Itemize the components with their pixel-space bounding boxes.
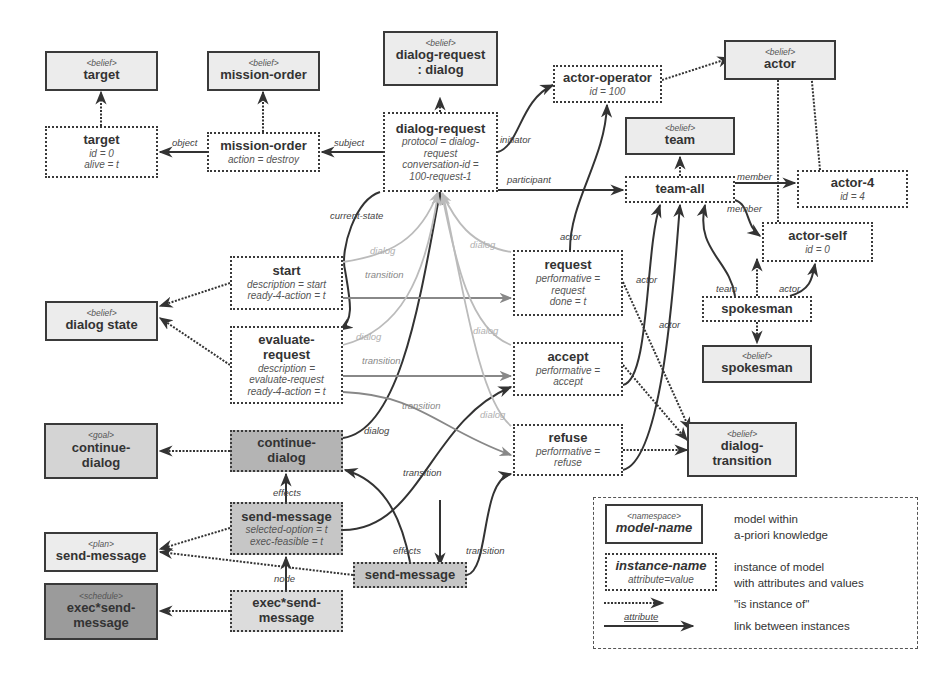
instance-title: actor-self bbox=[788, 229, 847, 244]
instance-title: send-message bbox=[241, 510, 331, 525]
legend-instance-box: instance-name attribute=value bbox=[605, 553, 717, 591]
model-title: target bbox=[83, 68, 119, 83]
instance-attr: evaluate-request bbox=[249, 374, 324, 386]
edge-label-transition: transition bbox=[362, 355, 401, 366]
instance-title: continue- dialog bbox=[257, 436, 316, 466]
model-send-message[interactable]: <plan> send-message bbox=[44, 532, 158, 572]
model-title: actor bbox=[764, 57, 796, 72]
instance-attr: id = 100 bbox=[590, 86, 626, 98]
instance-attr: conversation-id = bbox=[402, 159, 478, 171]
instance-accept[interactable]: accept performative = accept bbox=[513, 342, 623, 396]
edge-label-object: object bbox=[172, 137, 197, 148]
instance-send-message-node[interactable]: send-message bbox=[353, 562, 467, 588]
legend-instance-title: instance-name bbox=[615, 559, 706, 574]
instance-attr: action = destroy bbox=[228, 154, 299, 166]
model-title: exec*send- message bbox=[67, 601, 136, 631]
instance-title: actor-operator bbox=[563, 71, 652, 86]
instance-actor-4[interactable]: actor-4 id = 4 bbox=[797, 170, 908, 208]
instance-attr: 100-request-1 bbox=[409, 171, 471, 183]
edge-label-transition: transition bbox=[365, 269, 404, 280]
model-target[interactable]: <belief> target bbox=[45, 51, 158, 91]
edge-label-effects: effects bbox=[273, 487, 301, 498]
instance-title: send-message bbox=[365, 568, 455, 583]
instance-evaluate-request[interactable]: evaluate- request description = evaluate… bbox=[230, 326, 343, 404]
edge-label-actor: actor bbox=[560, 231, 581, 242]
edge-label-initiator: initiator bbox=[500, 134, 531, 145]
edge-label-dialog: dialog bbox=[473, 325, 498, 336]
instance-exec-send-message[interactable]: exec*send- message bbox=[230, 590, 343, 632]
instance-start[interactable]: start description = start ready-4-action… bbox=[230, 256, 343, 310]
instance-title: dialog-request bbox=[396, 122, 486, 137]
diagram-canvas: <belief> target <belief> mission-order <… bbox=[0, 0, 950, 675]
instance-title: mission-order bbox=[220, 139, 307, 154]
legend-instance-attr: attribute=value bbox=[628, 574, 694, 586]
model-title: dialog state bbox=[65, 318, 137, 333]
instance-title: target bbox=[83, 133, 119, 148]
model-title: spokesman bbox=[721, 361, 793, 376]
instance-team-all[interactable]: team-all bbox=[625, 176, 735, 203]
edge-label-team: team bbox=[716, 283, 737, 294]
instance-attr: refuse bbox=[554, 457, 582, 469]
model-dialog-transition[interactable]: <belief> dialog- transition bbox=[687, 422, 797, 477]
instance-continue-dialog[interactable]: continue- dialog bbox=[230, 430, 343, 472]
instance-title: accept bbox=[547, 350, 588, 365]
model-dialog-request[interactable]: <belief> dialog-request : dialog bbox=[383, 31, 498, 86]
legend-model-title: model-name bbox=[616, 521, 693, 536]
edge-label-dialog: dialog bbox=[356, 331, 381, 342]
legend-instance-desc: instance of model with attributes and va… bbox=[734, 560, 864, 591]
instance-actor-operator[interactable]: actor-operator id = 100 bbox=[553, 65, 662, 103]
edge-label-member: member bbox=[737, 171, 772, 182]
edge-label-effects: effects bbox=[393, 545, 421, 556]
edge-label-transition: transition bbox=[466, 545, 505, 556]
edge-label-transition: transition bbox=[402, 400, 441, 411]
instance-attr: alive = t bbox=[84, 159, 119, 171]
edge-label-actor: actor bbox=[779, 283, 800, 294]
model-dialog-state[interactable]: <belief> dialog state bbox=[45, 301, 158, 341]
model-title: send-message bbox=[56, 549, 146, 564]
instance-title: exec*send- message bbox=[252, 596, 321, 626]
instance-attr: performative = bbox=[536, 365, 600, 377]
model-exec-send-message[interactable]: <schedule> exec*send- message bbox=[44, 583, 158, 640]
edge-label-dialog: dialog bbox=[364, 425, 389, 436]
model-mission-order[interactable]: <belief> mission-order bbox=[207, 51, 320, 91]
instance-title: refuse bbox=[548, 431, 587, 446]
instance-attr: selected-option = t bbox=[246, 524, 328, 536]
legend-link-label: attribute bbox=[624, 611, 658, 622]
model-team[interactable]: <belief> team bbox=[625, 117, 735, 155]
legend-model-box: <namespace> model-name bbox=[605, 504, 703, 544]
edge-label-dialog: dialog bbox=[470, 239, 495, 250]
instance-attr: ready-4-action = t bbox=[247, 290, 325, 302]
instance-title: request bbox=[545, 258, 592, 273]
instance-attr: exec-feasible = t bbox=[250, 536, 323, 548]
edge-label-node: node bbox=[274, 573, 295, 584]
instance-request[interactable]: request performative = request done = t bbox=[513, 250, 623, 316]
edge-label-actor: actor bbox=[659, 319, 680, 330]
edge-label-dialog: dialog bbox=[480, 409, 505, 420]
model-title: team bbox=[665, 133, 695, 148]
edge-label-current-state: current-state bbox=[330, 210, 383, 221]
instance-attr: description = start bbox=[247, 279, 326, 291]
legend-model-desc: model within a-priori knowledge bbox=[734, 512, 828, 543]
legend-link-desc: link between instances bbox=[734, 619, 850, 635]
instance-title: spokesman bbox=[721, 302, 793, 317]
instance-attr: protocol = dialog- bbox=[402, 136, 479, 148]
instance-send-message-plan[interactable]: send-message selected-option = t exec-fe… bbox=[230, 502, 343, 555]
instance-attr: ready-4-action = t bbox=[247, 386, 325, 398]
instance-spokesman[interactable]: spokesman bbox=[702, 296, 812, 322]
instance-target[interactable]: target id = 0 alive = t bbox=[45, 126, 158, 178]
instance-mission-order[interactable]: mission-order action = destroy bbox=[207, 132, 320, 172]
model-actor[interactable]: <belief> actor bbox=[724, 40, 836, 80]
instance-attr: performative = bbox=[536, 273, 600, 285]
instance-attr: performative = bbox=[536, 446, 600, 458]
edge-label-transition: transition bbox=[403, 467, 442, 478]
model-spokesman[interactable]: <belief> spokesman bbox=[702, 345, 812, 383]
instance-attr: description = bbox=[258, 363, 315, 375]
instance-attr: done = t bbox=[550, 296, 586, 308]
instance-title: actor-4 bbox=[831, 176, 874, 191]
instance-dialog-request[interactable]: dialog-request protocol = dialog- reques… bbox=[383, 112, 498, 192]
model-continue-dialog[interactable]: <goal> continue- dialog bbox=[44, 423, 158, 479]
model-title: dialog- transition bbox=[712, 439, 771, 469]
instance-refuse[interactable]: refuse performative = refuse bbox=[513, 424, 623, 476]
edge-label-participant: participant bbox=[507, 174, 551, 185]
instance-actor-self[interactable]: actor-self id = 0 bbox=[762, 222, 873, 262]
